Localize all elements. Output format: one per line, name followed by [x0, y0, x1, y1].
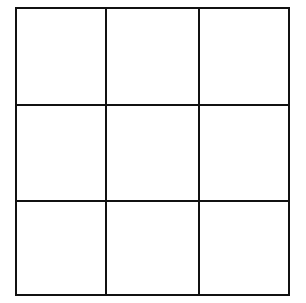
tic-tac-toe-grid — [15, 7, 290, 296]
cell-r2-c2[interactable] — [107, 106, 198, 200]
cell-r3-c3[interactable] — [200, 202, 288, 294]
cell-r1-c2[interactable] — [107, 9, 198, 104]
cell-r3-c2[interactable] — [107, 202, 198, 294]
cell-r1-c3[interactable] — [200, 9, 288, 104]
cell-r3-c1[interactable] — [17, 202, 105, 294]
cell-r2-c1[interactable] — [17, 106, 105, 200]
cell-r1-c1[interactable] — [17, 9, 105, 104]
cell-r2-c3[interactable] — [200, 106, 288, 200]
